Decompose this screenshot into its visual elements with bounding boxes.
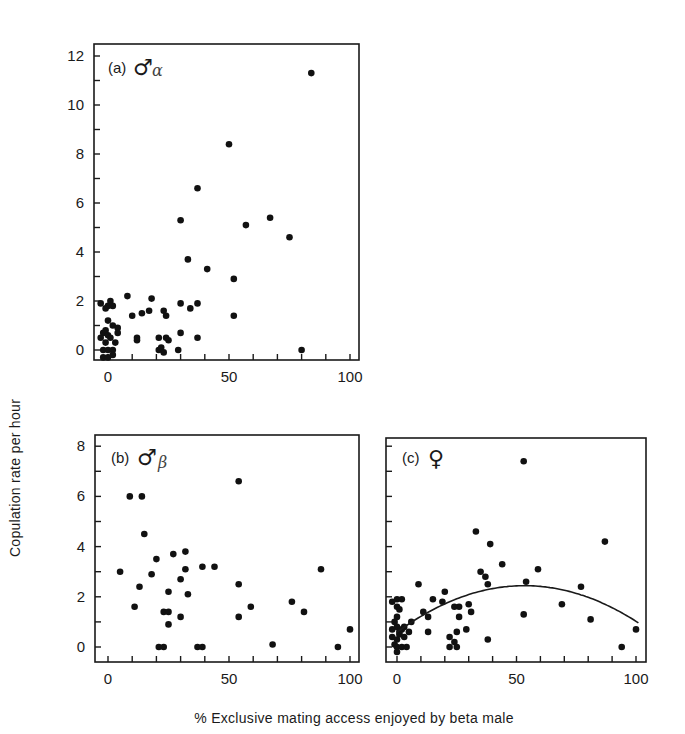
- data-point: [415, 581, 422, 588]
- panel-a-frame: [94, 44, 359, 360]
- y-tick-label: 8: [77, 437, 85, 454]
- fitted-curve: [397, 586, 638, 633]
- data-point: [286, 234, 293, 241]
- data-point: [389, 599, 396, 606]
- data-point: [231, 312, 238, 319]
- male-symbol-icon: ♂: [133, 55, 153, 80]
- data-point: [175, 347, 182, 354]
- data-point: [318, 566, 325, 573]
- data-point: [102, 339, 109, 346]
- figure: 024681012 050100 (a) ♂ α 02468 050100 (b…: [0, 0, 685, 734]
- panel-c-label: (c): [402, 449, 420, 466]
- data-point: [559, 601, 566, 608]
- y-tick-label: 10: [67, 96, 84, 113]
- x-tick-label: 50: [221, 368, 238, 385]
- panel-b-y-ticks: 02468: [77, 437, 101, 655]
- male-symbol-icon: ♂: [137, 445, 157, 470]
- data-point: [153, 556, 160, 563]
- y-tick-label: 4: [77, 538, 85, 555]
- data-point: [535, 566, 542, 573]
- data-point: [139, 310, 146, 317]
- y-tick-label: 0: [76, 341, 84, 358]
- x-tick-label: 50: [508, 670, 525, 687]
- panel-c-points: [389, 458, 639, 655]
- data-point: [211, 563, 218, 570]
- data-point: [269, 641, 276, 648]
- panel-b-label: (b): [111, 449, 129, 466]
- data-point: [102, 305, 109, 312]
- y-tick-label: 12: [67, 47, 84, 64]
- female-symbol-icon: ♀: [428, 446, 444, 471]
- data-point: [394, 649, 401, 656]
- data-point: [156, 335, 163, 342]
- data-point: [442, 589, 449, 596]
- y-tick-label: 0: [77, 638, 85, 655]
- data-point: [477, 568, 484, 575]
- data-point: [456, 614, 463, 621]
- y-tick-label: 4: [76, 243, 84, 260]
- data-point: [523, 578, 530, 585]
- panel-b-x-ticks: 050100: [104, 656, 363, 687]
- data-point: [499, 561, 506, 568]
- x-tick-label: 100: [337, 670, 362, 687]
- panel-a-x-ticks: 050100: [104, 354, 363, 385]
- data-point: [160, 349, 167, 356]
- x-axis-title: % Exclusive mating access enjoyed by bet…: [194, 710, 514, 726]
- panel-c: 050100 (c) ♀: [386, 438, 649, 687]
- data-point: [231, 276, 238, 283]
- data-point: [204, 266, 211, 273]
- data-point: [248, 604, 255, 611]
- panel-c-x-ticks: 050100: [393, 656, 649, 687]
- data-point: [136, 584, 143, 591]
- data-point: [235, 614, 242, 621]
- data-point: [177, 614, 184, 621]
- data-point: [235, 478, 242, 485]
- data-point: [160, 644, 167, 651]
- data-point: [177, 300, 184, 307]
- data-point: [187, 305, 194, 312]
- y-tick-label: 8: [76, 145, 84, 162]
- panel-c-frame: [386, 438, 646, 662]
- data-point: [235, 581, 242, 588]
- x-tick-label: 100: [623, 670, 648, 687]
- panel-a: 024681012 050100 (a) ♂ α: [67, 44, 362, 385]
- data-point: [110, 352, 117, 359]
- data-point: [578, 584, 585, 591]
- data-point: [520, 458, 527, 465]
- panel-c-y-ticks: [386, 446, 392, 647]
- y-tick-label: 2: [77, 588, 85, 605]
- data-point: [301, 609, 308, 616]
- panel-a-y-ticks: 024681012: [67, 47, 100, 358]
- data-point: [454, 644, 461, 651]
- data-point: [97, 300, 104, 307]
- panel-b-points: [117, 478, 354, 650]
- data-point: [97, 335, 104, 342]
- data-point: [226, 141, 233, 148]
- data-point: [520, 611, 527, 618]
- data-point: [485, 581, 492, 588]
- data-point: [243, 222, 250, 229]
- data-point: [298, 347, 305, 354]
- data-point: [406, 629, 413, 636]
- data-point: [587, 616, 594, 623]
- y-tick-label: 6: [76, 194, 84, 211]
- panel-a-points: [97, 70, 314, 361]
- data-point: [473, 528, 480, 535]
- data-point: [446, 644, 453, 651]
- data-point: [425, 629, 432, 636]
- data-point: [396, 606, 403, 613]
- data-point: [446, 634, 453, 641]
- data-point: [177, 330, 184, 337]
- data-point: [194, 335, 201, 342]
- data-point: [182, 548, 189, 555]
- data-point: [107, 335, 114, 342]
- data-point: [403, 644, 410, 651]
- x-tick-label: 100: [337, 368, 362, 385]
- data-point: [308, 70, 315, 77]
- data-point: [482, 573, 489, 580]
- x-tick-label: 0: [393, 670, 401, 687]
- data-point: [468, 609, 475, 616]
- panel-a-subscript: α: [152, 61, 163, 80]
- data-point: [425, 614, 432, 621]
- data-point: [199, 563, 206, 570]
